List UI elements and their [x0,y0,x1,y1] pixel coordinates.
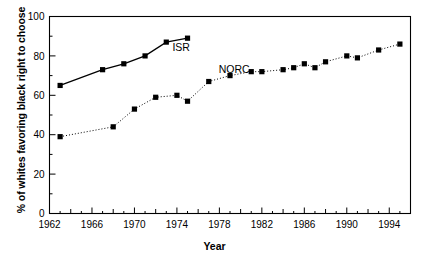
data-point-marker [132,106,137,111]
series-label-norc: NORC [219,63,250,75]
x-axis-ticks [50,208,411,214]
svg-text:1982: 1982 [251,219,274,230]
data-point-marker [355,55,360,60]
data-point-marker [58,83,63,88]
x-axis-title: Year [0,240,429,252]
svg-text:40: 40 [33,129,45,140]
axis-frame [50,17,411,214]
svg-text:100: 100 [28,11,45,22]
data-point-marker [153,95,158,100]
x-axis-tick-labels: 196219661970197419781982198619901994 [38,219,400,230]
data-point-marker [376,47,381,52]
series-label-isr: ISR [172,41,190,53]
data-point-marker [164,40,169,45]
y-axis-title: % of whites favoring black right to choo… [15,5,27,215]
svg-text:1986: 1986 [293,219,316,230]
svg-text:1978: 1978 [208,219,231,230]
data-point-marker [58,134,63,139]
data-point-marker [121,61,126,66]
data-point-marker [206,79,211,84]
svg-text:80: 80 [33,51,45,62]
y-axis-tick-labels: 020406080100 [28,11,45,219]
data-series-lines [60,38,400,137]
data-point-marker [280,67,285,72]
svg-text:0: 0 [39,208,45,219]
chart-plot-area: 196219661970197419781982198619901994 020… [0,0,429,265]
svg-text:1966: 1966 [81,219,104,230]
svg-text:1962: 1962 [38,219,61,230]
svg-text:20: 20 [33,169,45,180]
data-point-marker [111,124,116,129]
svg-text:1994: 1994 [378,219,401,230]
data-point-marker [344,53,349,58]
data-point-marker [312,65,317,70]
svg-text:1990: 1990 [336,219,359,230]
data-point-marker [142,53,147,58]
svg-text:1970: 1970 [123,219,146,230]
data-point-marker [323,59,328,64]
data-point-marker [185,99,190,104]
data-series-markers [58,36,403,140]
y-axis-ticks [50,17,56,214]
data-point-marker [100,67,105,72]
svg-text:1974: 1974 [166,219,189,230]
data-point-marker [291,65,296,70]
chart-figure: 196219661970197419781982198619901994 020… [0,0,429,265]
data-point-marker [174,93,179,98]
data-point-marker [397,41,402,46]
data-series-labels: ISRNORC [172,41,250,75]
data-point-marker [302,61,307,66]
data-point-marker [259,69,264,74]
svg-text:60: 60 [33,90,45,101]
